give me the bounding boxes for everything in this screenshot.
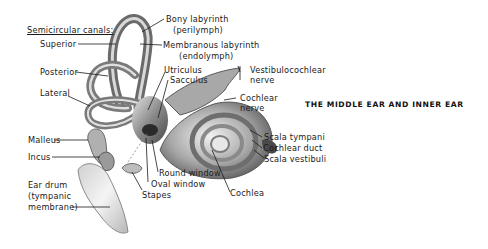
- label-cochlear: Cochlear: [240, 93, 278, 103]
- label-utriculus: Utriculus: [164, 65, 202, 75]
- label-ear-drum-sub2: membrane): [28, 202, 78, 212]
- label-cochlear-nerve: nerve: [240, 103, 264, 113]
- label-vestibulocochlear-nerve: nerve: [250, 75, 274, 85]
- label-lateral: Lateral: [40, 88, 70, 98]
- label-bony-labyrinth: Bony labyrinth: [166, 14, 229, 24]
- diagram-stage: Semicircular canals: Superior Posterior …: [0, 0, 488, 249]
- vestibule: [132, 96, 168, 144]
- label-malleus: Malleus: [28, 135, 61, 145]
- label-scala-vestibuli: Scala vestibuli: [264, 154, 326, 164]
- label-cochlear-duct: Cochlear duct: [263, 143, 322, 153]
- label-membranous-labyrinth-sub: (endolymph): [179, 51, 234, 61]
- label-oval-window: Oval window: [151, 179, 205, 189]
- label-membranous-labyrinth: Membranous labyrinth: [163, 40, 259, 50]
- diagram-title: THE MIDDLE EAR AND INNER EAR: [305, 100, 464, 109]
- label-cochlea: Cochlea: [230, 188, 264, 198]
- oval-window-shape: [142, 124, 158, 136]
- label-sacculus: Sacculus: [170, 75, 208, 85]
- label-incus: Incus: [28, 152, 51, 162]
- label-semicircular-canals: Semicircular canals:: [27, 25, 113, 35]
- label-superior: Superior: [40, 39, 76, 49]
- ear-drum-shape: [78, 164, 128, 233]
- label-round-window: Round window: [159, 168, 221, 178]
- label-posterior: Posterior: [40, 67, 78, 77]
- label-scala-tympani: Scala tympani: [264, 132, 325, 142]
- label-vestibulocochlear: Vestibulocochlear: [250, 65, 326, 75]
- stapes-shape: [122, 164, 142, 174]
- label-bony-labyrinth-sub: (perilymph): [173, 25, 223, 35]
- label-stapes: Stapes: [142, 190, 171, 200]
- label-ear-drum-sub1: (tympanic: [28, 191, 71, 201]
- label-ear-drum: Ear drum: [28, 180, 68, 190]
